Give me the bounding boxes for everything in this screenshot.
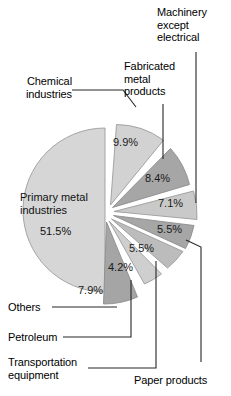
slice-value-petroleum: 4.2% bbox=[108, 261, 133, 273]
slice-value-paper-products: 5.5% bbox=[157, 223, 182, 235]
slice-value-fabricated-metal-products: 8.4% bbox=[145, 172, 170, 184]
callout-label-chemical-industries: Chemical industries bbox=[0, 75, 72, 100]
slice-value-transportation-equipment: 5.5% bbox=[129, 242, 154, 254]
slice-value-machinery-except-electrical: 7.1% bbox=[158, 197, 183, 209]
callout-label-others: Others bbox=[8, 301, 52, 314]
callout-label-fabricated-metal-products: Fabricated metal products bbox=[124, 60, 188, 98]
callout-label-paper-products: Paper products bbox=[134, 374, 230, 387]
slice-value-others: 7.9% bbox=[78, 284, 103, 296]
slice-label-primary-metal-industries: Primary metal industries bbox=[20, 191, 112, 216]
callout-label-machinery-except-electrical: Machinery except electrical bbox=[157, 6, 229, 44]
slice-value-primary-metal-industries: 51.5% bbox=[40, 225, 100, 238]
leader-line-paper-products bbox=[186, 240, 201, 362]
callout-label-transportation-equipment: Transportation equipment bbox=[8, 356, 90, 381]
callout-label-petroleum: Petroleum bbox=[8, 331, 66, 344]
slice-value-chemical-industries: 9.9% bbox=[113, 136, 138, 148]
pie-chart-figure: Chemical industries Fabricated metal pro… bbox=[0, 0, 231, 396]
